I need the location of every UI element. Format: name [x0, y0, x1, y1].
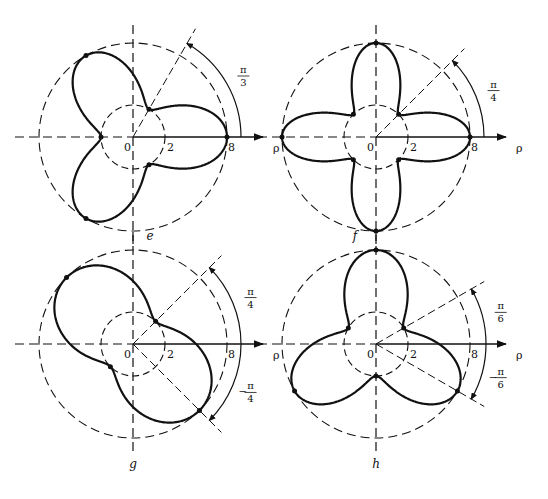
rho-axis-label: ρ: [516, 349, 522, 362]
panel-e: 028ρeπ3: [15, 25, 279, 249]
angle-arc-arrow: [209, 344, 241, 420]
angle-denominator: 3: [240, 77, 246, 88]
radius-2-label: 2: [167, 141, 174, 154]
angle-arc-arrow: [471, 289, 486, 344]
angle-ray-dashed: [376, 49, 464, 137]
panel-caption: h: [372, 457, 380, 471]
max-point-dot: [292, 389, 297, 394]
rose-curve: [291, 250, 460, 404]
angle-denominator: 6: [498, 313, 504, 324]
max-point-dot: [84, 53, 89, 58]
angle-ray-dashed: [133, 344, 221, 432]
angle-denominator: 4: [247, 393, 253, 404]
angle-sign: −: [239, 386, 247, 397]
angle-denominator: 4: [490, 92, 496, 103]
min-point-dot: [99, 135, 104, 140]
radius-8-label: 8: [471, 141, 478, 154]
angle-arc-arrow: [209, 268, 241, 344]
angle-sign: −: [489, 372, 497, 383]
angle-numerator: π: [240, 64, 247, 75]
max-point-dot: [374, 248, 379, 253]
angle-denominator: 6: [498, 379, 504, 390]
min-point-dot: [396, 157, 401, 162]
max-point-dot: [280, 135, 285, 140]
panel-h: 028ρhπ6−π6: [258, 232, 522, 471]
radius-2-label: 2: [410, 141, 417, 154]
max-point-dot: [225, 135, 230, 140]
max-point-dot: [455, 389, 460, 394]
radius-8-label: 8: [228, 141, 235, 154]
angle-numerator: π: [247, 286, 254, 297]
polar-rose-figure: 028ρeπ3 028ρfπ4 028ρgπ4−π4 028ρhπ6−π6: [0, 0, 548, 499]
max-point-dot: [84, 216, 89, 221]
rho-axis-label: ρ: [273, 142, 279, 155]
origin-label: 0: [367, 348, 374, 361]
min-point-dot: [108, 364, 113, 369]
panel-caption: g: [129, 457, 137, 471]
min-point-dot: [346, 326, 351, 331]
panel-caption: f: [352, 229, 360, 243]
angle-ray-dashed: [376, 344, 484, 407]
radius-8-label: 8: [228, 348, 235, 361]
radius-8-label: 8: [471, 348, 478, 361]
max-point-dot: [468, 135, 473, 140]
angle-numerator: π: [497, 300, 504, 311]
origin-label: 0: [124, 348, 131, 361]
panel-f: 028ρfπ4: [258, 25, 522, 249]
radius-2-label: 2: [410, 348, 417, 361]
angle-numerator: π: [247, 380, 254, 391]
min-point-dot: [374, 374, 379, 379]
angle-numerator: π: [497, 366, 504, 377]
angle-arc-arrow: [452, 61, 484, 137]
max-point-dot: [64, 275, 69, 280]
angle-ray-dashed: [133, 29, 196, 137]
max-point-dot: [374, 41, 379, 46]
min-point-dot: [351, 157, 356, 162]
rho-axis-label: ρ: [273, 349, 279, 362]
origin-label: 0: [124, 141, 131, 154]
angle-ray-dashed: [376, 282, 484, 345]
panel-g: 028ρgπ4−π4: [15, 232, 279, 471]
min-point-dot: [147, 162, 152, 167]
angle-denominator: 4: [247, 299, 253, 310]
panel-caption: e: [146, 229, 153, 243]
angle-numerator: π: [490, 79, 497, 90]
rho-axis-label: ρ: [516, 142, 522, 155]
radius-2-label: 2: [167, 348, 174, 361]
origin-label: 0: [367, 141, 374, 154]
min-point-dot: [351, 112, 356, 117]
